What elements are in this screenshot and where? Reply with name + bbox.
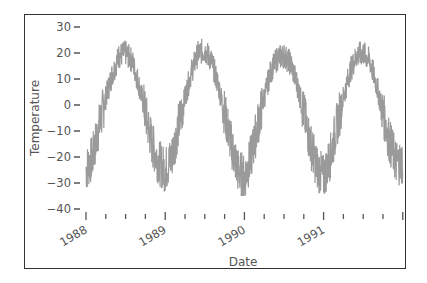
y-tick-label: 10 xyxy=(56,72,71,86)
y-tick-label: 0 xyxy=(64,98,71,112)
y-tick-label: 20 xyxy=(56,46,71,60)
y-tick-label: −10 xyxy=(47,124,71,138)
x-tick-label: 1991 xyxy=(295,222,327,249)
y-axis: 3020100−10−20−30−40 xyxy=(47,20,80,216)
x-axis: 1988198919901991 xyxy=(57,212,403,249)
x-tick-label: 1989 xyxy=(136,222,168,249)
x-tick-label: 1990 xyxy=(216,222,248,249)
x-tick-label: 1988 xyxy=(57,222,89,249)
chart: 3020100−10−20−30−40 1988198919901991 Tem… xyxy=(0,0,427,283)
y-axis-label: Temperature xyxy=(28,80,42,157)
y-tick-label: −40 xyxy=(47,202,71,216)
y-tick-label: −20 xyxy=(47,150,71,164)
x-axis-label: Date xyxy=(229,255,258,269)
temperature-line xyxy=(86,39,403,196)
y-tick-label: 30 xyxy=(56,20,71,34)
y-tick-label: −30 xyxy=(47,176,71,190)
